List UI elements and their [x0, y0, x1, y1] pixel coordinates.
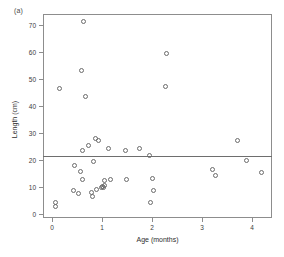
data-point — [124, 177, 129, 182]
x-tick-mark — [102, 218, 103, 222]
data-point — [244, 158, 249, 163]
data-point — [80, 177, 85, 182]
data-point — [72, 163, 77, 168]
data-point — [102, 178, 107, 183]
data-point — [96, 138, 101, 143]
data-point — [91, 159, 96, 164]
y-tick-label: 60 — [29, 48, 36, 55]
data-point — [106, 146, 111, 151]
y-axis-label: Length (cm) — [11, 60, 18, 180]
data-point — [137, 146, 142, 151]
data-point — [213, 173, 218, 178]
plot-area — [43, 14, 272, 218]
data-point — [163, 84, 168, 89]
data-point — [78, 169, 83, 174]
y-tick-label: 20 — [29, 156, 36, 163]
x-tick-label: 1 — [100, 224, 104, 231]
data-point — [164, 51, 169, 56]
data-point — [80, 148, 85, 153]
data-point — [86, 143, 91, 148]
data-point — [81, 19, 86, 24]
x-tick-mark — [252, 218, 253, 222]
data-point — [235, 138, 240, 143]
data-point — [71, 188, 76, 193]
y-tick-label: 10 — [29, 183, 36, 190]
data-point — [90, 194, 95, 199]
scatter-plot-figure: (a) 010203040506070 01234 Age (months) L… — [0, 0, 284, 257]
x-tick-mark — [52, 218, 53, 222]
data-point — [123, 148, 128, 153]
y-tick-label: 70 — [29, 21, 36, 28]
x-axis-label: Age (months) — [43, 236, 272, 243]
x-tick-label: 0 — [50, 224, 54, 231]
x-tick-mark — [202, 218, 203, 222]
x-tick-label: 3 — [200, 224, 204, 231]
data-point — [102, 183, 107, 188]
data-point — [94, 187, 99, 192]
x-tick-label: 4 — [250, 224, 254, 231]
y-tick-label: 40 — [29, 102, 36, 109]
y-tick-label: 50 — [29, 75, 36, 82]
data-point — [57, 86, 62, 91]
data-point — [108, 177, 113, 182]
x-tick-label: 2 — [150, 224, 154, 231]
data-point — [150, 176, 155, 181]
reference-line — [43, 156, 272, 157]
y-tick-label: 30 — [29, 129, 36, 136]
data-point — [210, 167, 215, 172]
y-tick-label: 0 — [32, 210, 36, 217]
x-axis: 01234 — [43, 218, 272, 238]
data-point — [83, 94, 88, 99]
x-tick-mark — [152, 218, 153, 222]
data-point — [76, 191, 81, 196]
data-point — [79, 68, 84, 73]
y-axis: 010203040506070 — [0, 14, 43, 218]
data-point — [151, 188, 156, 193]
panel-label: (a) — [14, 7, 23, 14]
data-point — [147, 153, 152, 158]
data-point — [148, 200, 153, 205]
data-point — [259, 170, 264, 175]
data-point — [53, 204, 58, 209]
